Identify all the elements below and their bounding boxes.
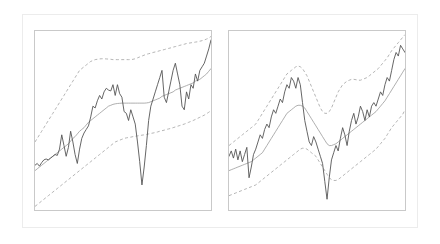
chart-panel-left	[34, 30, 212, 211]
chart-panel-right	[228, 30, 406, 211]
lower-band-line-right	[229, 35, 405, 146]
middle-band-line-right	[229, 69, 405, 171]
middle-band-line-left	[35, 69, 211, 171]
chart-svg-right	[229, 31, 405, 210]
lower-band-line-left	[35, 36, 211, 142]
upper-band-line-right	[229, 110, 405, 196]
chart-svg-left	[35, 31, 211, 210]
figure-root	[0, 0, 440, 244]
upper-band-line-left	[35, 111, 211, 207]
price-line-left	[35, 40, 211, 185]
